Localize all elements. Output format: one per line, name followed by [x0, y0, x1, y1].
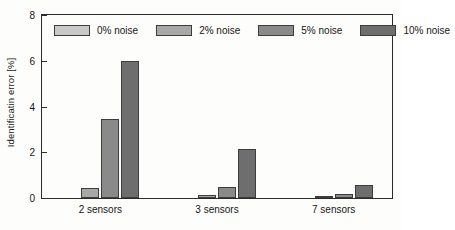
y-axis-label-text: Identificatin error [%]	[6, 58, 17, 147]
bar	[218, 187, 236, 198]
bar	[355, 185, 373, 198]
y-tick-mark	[42, 198, 47, 199]
y-tick-label: 2	[29, 147, 35, 158]
legend-label: 10% noise	[403, 25, 450, 36]
y-tick-mark	[42, 61, 47, 62]
legend-swatch-icon	[360, 25, 396, 36]
y-axis-label: Identificatin error [%]	[2, 0, 20, 205]
bar	[238, 149, 256, 198]
x-tick-label: 3 sensors	[195, 204, 238, 215]
y-tick-label: 0	[29, 193, 35, 204]
legend-entry: 2% noise	[156, 25, 240, 36]
legend-entry: 5% noise	[258, 25, 342, 36]
y-tick-mark	[42, 107, 47, 108]
legend-swatch-icon	[54, 25, 90, 36]
legend-entry: 0% noise	[54, 25, 138, 36]
legend-label: 5% noise	[301, 25, 342, 36]
plot-area: 02468 2 sensors3 sensors7 sensors 0% noi…	[41, 14, 393, 199]
y-tick-label: 4	[29, 101, 35, 112]
bar	[335, 194, 353, 198]
bar	[315, 196, 333, 198]
legend-swatch-icon	[156, 25, 192, 36]
bar	[198, 195, 216, 198]
y-tick-label: 8	[29, 10, 35, 21]
y-tick-mark	[42, 152, 47, 153]
x-tick-label: 7 sensors	[312, 204, 355, 215]
chart-legend: 0% noise2% noise5% noise10% noise	[54, 25, 455, 36]
bar	[121, 61, 139, 198]
y-tick-label: 6	[29, 55, 35, 66]
legend-label: 2% noise	[199, 25, 240, 36]
x-tick-label: 2 sensors	[79, 204, 122, 215]
bar	[81, 188, 99, 198]
legend-swatch-icon	[258, 25, 294, 36]
y-tick-mark	[42, 15, 47, 16]
legend-entry: 10% noise	[360, 25, 450, 36]
legend-label: 0% noise	[97, 25, 138, 36]
bar	[101, 119, 119, 198]
